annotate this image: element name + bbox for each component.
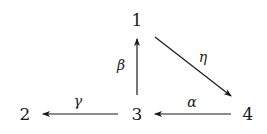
node-2: 2 <box>20 104 31 124</box>
node-3: 3 <box>132 104 143 124</box>
node-4: 4 <box>243 104 254 124</box>
edge-1-to-4 <box>155 37 231 96</box>
edge-label-eta: η <box>199 49 208 65</box>
edge-label-alpha: α <box>187 94 197 110</box>
diagram-canvas: 1 2 3 4 β η γ α <box>0 0 267 134</box>
edge-label-gamma: γ <box>74 93 83 109</box>
graph-svg: 1 2 3 4 β η γ α <box>0 0 267 134</box>
edge-label-beta: β <box>116 57 125 73</box>
node-1: 1 <box>132 10 143 30</box>
